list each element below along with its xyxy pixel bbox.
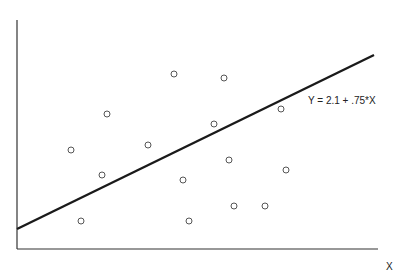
data-point bbox=[180, 177, 186, 183]
data-point bbox=[231, 203, 237, 209]
data-point bbox=[68, 147, 74, 153]
scatter-plot: Y = 2.1 + .75*X X bbox=[0, 0, 409, 276]
data-point bbox=[283, 167, 289, 173]
data-point bbox=[278, 106, 284, 112]
regression-line bbox=[17, 55, 374, 229]
data-point bbox=[221, 75, 227, 81]
regression-equation: Y = 2.1 + .75*X bbox=[308, 95, 376, 106]
data-point bbox=[186, 218, 192, 224]
x-axis-label: X bbox=[386, 261, 393, 272]
data-point bbox=[104, 111, 110, 117]
data-point bbox=[99, 172, 105, 178]
data-point bbox=[145, 142, 151, 148]
data-point bbox=[262, 203, 268, 209]
axes bbox=[17, 20, 378, 249]
data-points bbox=[68, 71, 289, 224]
data-point bbox=[211, 121, 217, 127]
data-point bbox=[226, 157, 232, 163]
data-point bbox=[171, 71, 177, 77]
data-point bbox=[78, 218, 84, 224]
